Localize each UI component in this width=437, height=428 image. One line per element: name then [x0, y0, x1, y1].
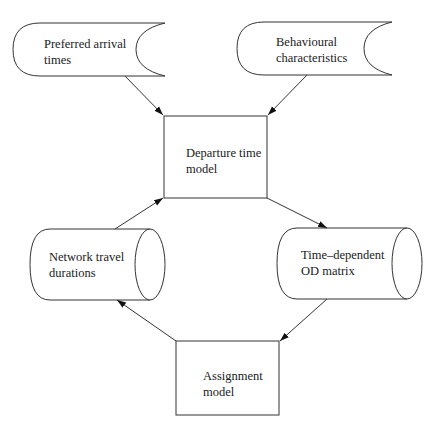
network-travel-durations-label: Network travel durations	[49, 249, 124, 281]
arrow-network-to-departure	[115, 198, 163, 229]
arrow-preferred-to-departure	[125, 76, 163, 115]
departure-time-model-label: Departure time model	[186, 145, 261, 177]
behavioural-characteristics-label: Behavioural characteristics	[276, 34, 347, 66]
arrow-behavioural-to-departure	[268, 75, 307, 115]
preferred-arrival-times-label: Preferred arrival times	[44, 36, 126, 68]
od-matrix-label: Time–dependent OD matrix	[301, 247, 385, 279]
arrow-od-to-assignment	[280, 299, 327, 341]
arrow-departure-to-od	[267, 198, 327, 228]
assignment-model-label: Assignment model	[203, 368, 263, 400]
arrow-assignment-to-network	[117, 300, 176, 341]
